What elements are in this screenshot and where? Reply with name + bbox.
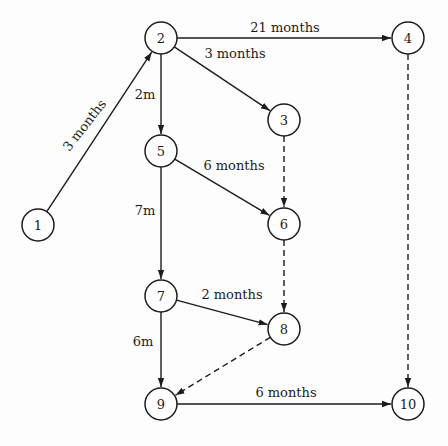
- node-9: 9: [145, 388, 177, 420]
- node-5: 5: [145, 135, 177, 167]
- edge-label-5-7: 7m: [135, 203, 156, 218]
- node-label: 4: [404, 31, 412, 46]
- edge-7-8: [176, 300, 267, 324]
- edge-1-2: [47, 52, 152, 211]
- edge-label-7-9: 6m: [133, 334, 154, 349]
- node-2: 2: [145, 22, 177, 54]
- edge-label-7-8: 2 months: [201, 287, 262, 302]
- node-8: 8: [268, 313, 300, 345]
- node-label: 6: [280, 217, 288, 232]
- node-3: 3: [268, 104, 300, 136]
- edge-label-2-3: 3 months: [204, 46, 265, 61]
- edge-label-2-4: 21 months: [250, 20, 319, 35]
- edge-label-1-2: 3 months: [60, 96, 110, 153]
- node-6: 6: [268, 208, 300, 240]
- diagram-svg: 12345678910 3 months21 months3 months2m6…: [0, 0, 448, 446]
- edge-label-2-5: 2m: [135, 87, 156, 102]
- node-label: 8: [280, 322, 288, 337]
- node-7: 7: [145, 280, 177, 312]
- node-label: 7: [157, 289, 165, 304]
- edge-label-5-6: 6 months: [203, 158, 264, 173]
- node-label: 5: [157, 144, 165, 159]
- node-4: 4: [392, 22, 424, 54]
- node-10: 10: [392, 388, 424, 420]
- node-label: 9: [157, 397, 165, 412]
- edges-layer: [47, 38, 408, 404]
- node-label: 10: [400, 397, 417, 412]
- node-label: 3: [280, 113, 288, 128]
- edge-label-9-10: 6 months: [255, 385, 316, 400]
- node-label: 2: [157, 31, 165, 46]
- node-1: 1: [22, 209, 54, 241]
- nodes-layer: 12345678910: [22, 22, 424, 420]
- network-diagram: 12345678910 3 months21 months3 months2m6…: [0, 0, 448, 446]
- node-label: 1: [34, 218, 42, 233]
